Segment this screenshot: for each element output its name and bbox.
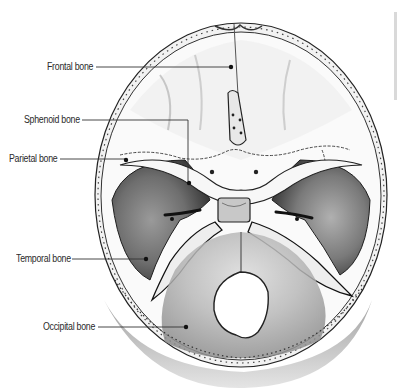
- label-sphenoid-bone: Sphenoid bone: [24, 114, 80, 126]
- label-parietal-bone: Parietal bone: [9, 153, 57, 165]
- skull-base-diagram: Frontal bone Sphenoid bone Parietal bone…: [0, 0, 398, 390]
- label-occipital-bone: Occipital bone: [43, 321, 95, 333]
- parietal-dot: [124, 158, 128, 162]
- temporal-dot: [144, 257, 148, 261]
- occipital-dot: [184, 325, 188, 329]
- label-frontal-bone: Frontal bone: [47, 61, 93, 73]
- label-temporal-bone: Temporal bone: [16, 253, 71, 265]
- sphenoid-dot: [187, 181, 191, 185]
- page-edge-bar: [394, 12, 397, 100]
- frontal-dot: [229, 65, 233, 69]
